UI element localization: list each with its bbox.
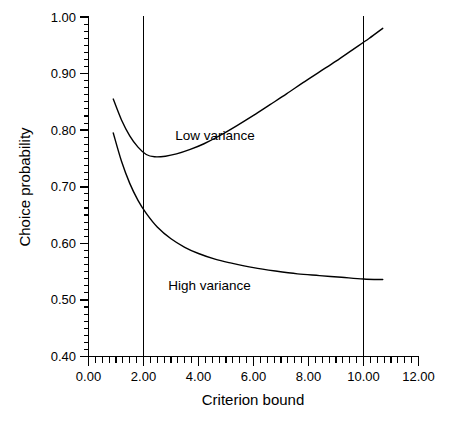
y-tick-label: 0.60 <box>51 236 76 251</box>
y-axis <box>80 17 89 357</box>
y-tick-label: 0.40 <box>51 349 76 364</box>
x-tick-label: 4.00 <box>186 369 211 384</box>
chart-plot-area: 0.400.500.600.700.800.901.00 0.002.004.0… <box>0 0 450 423</box>
reference-lines <box>144 16 364 357</box>
x-axis-major-ticks <box>89 356 419 366</box>
y-axis-major-ticks <box>80 17 89 357</box>
x-axis <box>88 356 419 366</box>
x-tick-label: 8.00 <box>296 369 321 384</box>
series-annotation-label: High variance <box>168 278 251 293</box>
chart-figure: 0.400.500.600.700.800.901.00 0.002.004.0… <box>0 0 450 423</box>
x-axis-title: Criterion bound <box>202 391 305 408</box>
y-tick-label: 0.70 <box>51 179 76 194</box>
y-tick-label: 0.50 <box>51 292 76 307</box>
series-annotation-label: Low variance <box>175 128 255 143</box>
y-axis-tick-labels: 0.400.500.600.700.800.901.00 <box>51 10 76 365</box>
x-tick-label: 10.00 <box>347 369 380 384</box>
data-series <box>113 28 383 279</box>
y-axis-title: Choice probability <box>16 127 33 247</box>
y-tick-label: 0.90 <box>51 66 76 81</box>
x-tick-label: 0.00 <box>76 369 101 384</box>
y-tick-label: 0.80 <box>51 123 76 138</box>
x-tick-label: 2.00 <box>131 369 156 384</box>
series-curve <box>113 133 383 280</box>
x-tick-label: 6.00 <box>241 369 266 384</box>
x-tick-label: 12.00 <box>402 369 435 384</box>
y-tick-label: 1.00 <box>51 10 76 25</box>
x-axis-tick-labels: 0.002.004.006.008.0010.0012.00 <box>76 369 435 384</box>
